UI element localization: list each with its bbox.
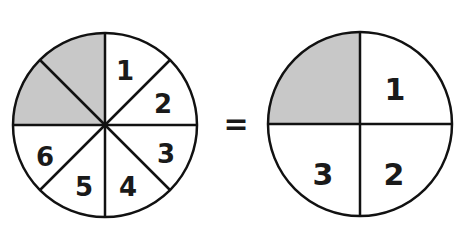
left-label-4: 4 <box>119 172 137 202</box>
left-label-1: 1 <box>116 56 134 86</box>
left-circle-eighths: 1 2 3 4 5 6 <box>13 33 197 217</box>
left-label-6: 6 <box>36 142 54 172</box>
right-label-1: 1 <box>385 72 406 107</box>
right-label-2: 2 <box>384 157 405 192</box>
right-circle-quarters: 1 2 3 <box>268 32 452 216</box>
right-label-3: 3 <box>313 157 334 192</box>
left-label-5: 5 <box>75 172 93 202</box>
left-label-3: 3 <box>157 139 175 169</box>
left-label-2: 2 <box>154 89 172 119</box>
equals-sign: = <box>223 106 248 141</box>
fraction-diagram: 1 2 3 4 5 6 = 1 2 3 <box>0 0 464 236</box>
right-shaded-sector <box>268 32 360 124</box>
